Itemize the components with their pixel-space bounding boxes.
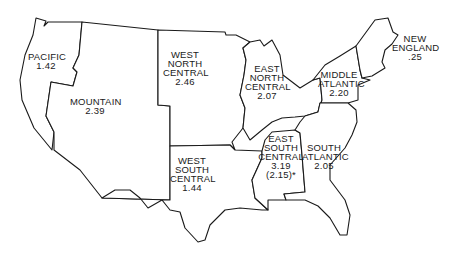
region-west-north-central (158, 30, 250, 150)
label-west-south-central: WEST SOUTH CENTRAL 1.44 (170, 156, 214, 192)
label-east-north-central: EAST NORTH CENTRAL 2.07 (245, 64, 289, 100)
us-map (0, 0, 450, 258)
region-note: (2.15)* (256, 170, 306, 179)
label-new-england: NEW ENGLAND .25 (392, 34, 438, 61)
label-east-south-central: EAST SOUTH CENTRAL 3.19 (2.15)* (256, 134, 306, 179)
region-value: 2.39 (70, 106, 120, 115)
region-value: 2.07 (245, 91, 289, 100)
label-west-north-central: WEST NORTH CENTRAL 2.46 (163, 50, 207, 86)
region-value: 2.05 (302, 161, 346, 170)
region-value: 1.44 (170, 183, 214, 192)
region-value: 1.42 (28, 61, 64, 70)
label-middle-atlantic: MIDDLE ATLANTIC 2.20 (318, 70, 360, 97)
label-mountain: MOUNTAIN 2.39 (70, 97, 120, 115)
label-pacific: PACIFIC 1.42 (28, 52, 64, 70)
region-value: .25 (392, 52, 438, 61)
label-south-atlantic: SOUTH ATLANTIC 2.05 (302, 143, 346, 170)
region-value: 2.46 (163, 77, 207, 86)
region-value: 2.20 (318, 88, 360, 97)
